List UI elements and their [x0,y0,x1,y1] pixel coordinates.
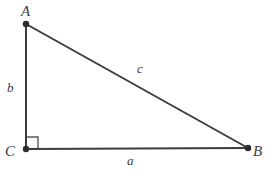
geometry-figure: A B C b c a [0,0,273,176]
side-c-line [26,24,248,148]
vertex-dot-c [23,146,29,152]
vertex-label-c: C [5,144,15,159]
vertex-label-a: A [21,4,30,19]
vertex-label-b: B [253,144,262,159]
vertex-dot-a [23,21,29,27]
side-label-a: a [127,154,134,167]
vertex-dot-b [245,145,251,151]
side-label-c: c [137,62,143,75]
right-angle-marker [27,137,38,148]
side-label-b: b [7,81,14,94]
triangle-drawing [0,0,273,176]
side-a-line [26,148,248,149]
